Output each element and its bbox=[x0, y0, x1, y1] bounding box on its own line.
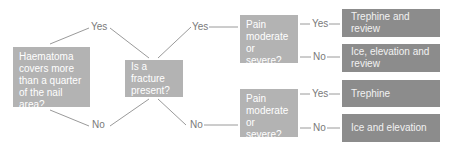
fracture-yes-label: Yes bbox=[191, 21, 209, 33]
pain-bottom-yes-label: Yes bbox=[311, 88, 329, 100]
pain-top-yes-label: Yes bbox=[311, 18, 329, 30]
haematoma-question-box: Haematoma covers more than a quarter of … bbox=[13, 47, 90, 107]
outcome-ice-and-elevation: Ice and elevation bbox=[342, 114, 440, 142]
fracture-question-text: Is a fracture present? bbox=[131, 61, 177, 97]
fracture-no-label: No bbox=[189, 119, 204, 131]
haematoma-no-label: No bbox=[91, 119, 106, 131]
outcome-text-2: Ice, elevation and review bbox=[351, 46, 431, 70]
outcome-trephine: Trephine bbox=[342, 80, 440, 107]
fracture-question-box: Is a fracture present? bbox=[125, 60, 183, 97]
haematoma-yes-label: Yes bbox=[90, 21, 108, 33]
pain-question-text-top: Pain moderate or severe? bbox=[246, 19, 288, 66]
outcome-text-4: Ice and elevation bbox=[351, 122, 427, 134]
pain-question-box-top: Pain moderate or severe? bbox=[240, 15, 298, 63]
outcome-trephine-and-review: Trephine and review bbox=[342, 9, 440, 37]
haematoma-question-text: Haematoma covers more than a quarter of … bbox=[19, 51, 81, 110]
outcome-text-3: Trephine bbox=[351, 88, 390, 100]
pain-question-box-bottom: Pain moderate or severe? bbox=[240, 89, 298, 137]
pain-question-text-bottom: Pain moderate or severe? bbox=[246, 93, 288, 140]
pain-top-no-label: No bbox=[312, 51, 327, 63]
outcome-ice-elevation-review: Ice, elevation and review bbox=[342, 44, 440, 72]
pain-bottom-no-label: No bbox=[312, 122, 327, 134]
outcome-text-1: Trephine and review bbox=[351, 11, 431, 35]
